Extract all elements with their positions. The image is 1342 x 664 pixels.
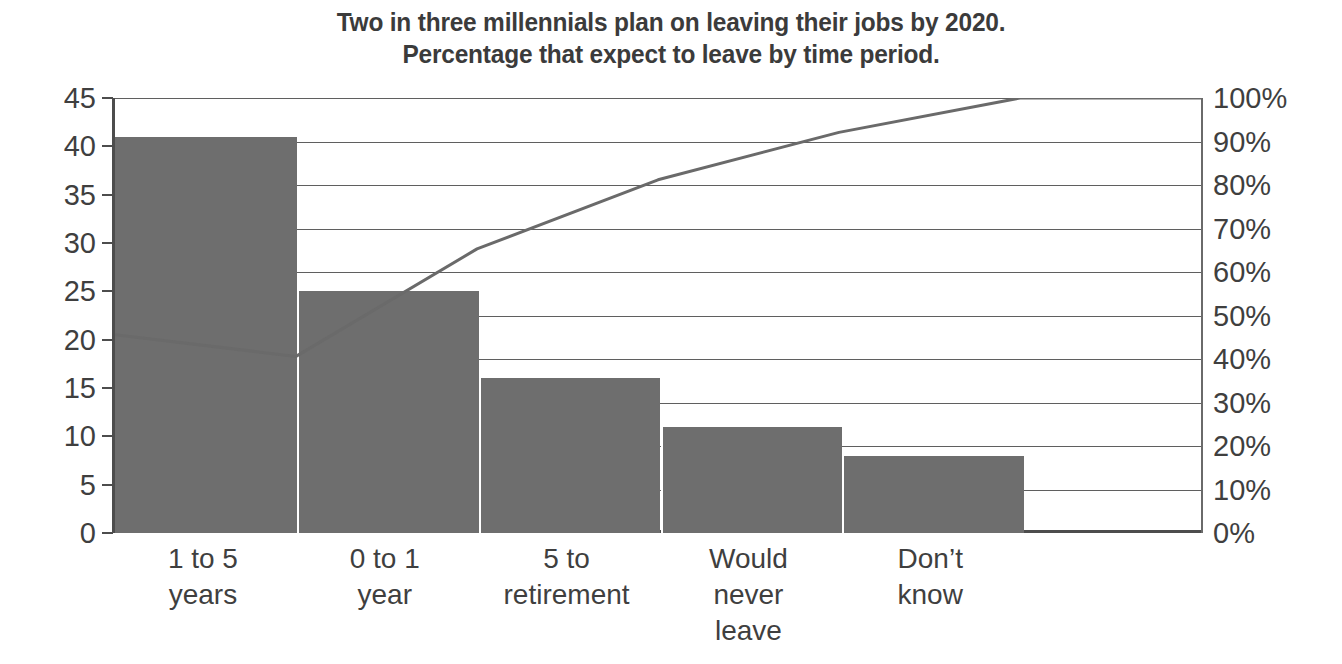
bar-series [115, 98, 1201, 533]
tick-mark-10 [102, 435, 113, 437]
x-axis-label-line: Would [658, 541, 840, 577]
bar-4 [661, 427, 843, 533]
y-axis-right-labels: 0%10%20%30%40%50%60%70%80%90%100% [1213, 98, 1342, 533]
tick-mark-0 [102, 532, 113, 534]
y-axis-left-label-30: 30 [0, 229, 96, 258]
chart-title-line-2: Percentage that expect to leave by time … [40, 38, 1301, 70]
y-axis-right-label-70%: 70% [1213, 214, 1271, 243]
chart-title: Two in three millennials plan on leaving… [0, 6, 1342, 70]
tick-mark-5 [102, 484, 113, 486]
y-axis-right-label-90%: 90% [1213, 127, 1271, 156]
chart-title-line-1: Two in three millennials plan on leaving… [40, 6, 1301, 38]
x-axis-label-4: Wouldneverleave [658, 541, 840, 649]
plot-area [112, 98, 1203, 533]
y-axis-left-label-40: 40 [0, 132, 96, 161]
y-axis-right-label-100%: 100% [1213, 84, 1287, 113]
y-axis-left-label-15: 15 [0, 374, 96, 403]
x-axis-label-line: leave [658, 613, 840, 649]
y-axis-left-label-45: 45 [0, 84, 96, 113]
x-axis-label-line: 1 to 5 [112, 541, 294, 577]
x-axis-label-line: year [294, 577, 476, 613]
y-axis-left-labels: 051015202530354045 [0, 98, 96, 533]
bar-3 [479, 378, 661, 533]
tick-mark-45 [102, 97, 113, 99]
tick-mark-40 [102, 145, 113, 147]
y-axis-right-label-40%: 40% [1213, 345, 1271, 374]
y-axis-right-label-50%: 50% [1213, 301, 1271, 330]
bar-2 [297, 291, 479, 533]
bar-1 [115, 137, 297, 533]
y-axis-right-label-20%: 20% [1213, 432, 1271, 461]
x-axis-label-line: know [839, 577, 1021, 613]
x-axis-label-3: 5 toretirement [476, 541, 658, 613]
y-axis-left-label-0: 0 [0, 519, 96, 548]
bar-5 [842, 456, 1024, 533]
y-axis-left-label-5: 5 [0, 470, 96, 499]
tick-mark-35 [102, 194, 113, 196]
pareto-chart: Two in three millennials plan on leaving… [0, 0, 1342, 664]
y-axis-right-label-10%: 10% [1213, 475, 1271, 504]
x-axis-label-1: 1 to 5years [112, 541, 294, 613]
x-axis-label-5: Don’tknow [839, 541, 1021, 613]
x-axis-label-line: Don’t [839, 541, 1021, 577]
x-axis-label-line: never [658, 577, 840, 613]
y-axis-right-label-30%: 30% [1213, 388, 1271, 417]
y-axis-right-label-0%: 0% [1213, 519, 1255, 548]
tick-mark-15 [102, 387, 113, 389]
y-axis-right-label-60%: 60% [1213, 258, 1271, 287]
x-axis-label-2: 0 to 1year [294, 541, 476, 613]
y-axis-left-label-10: 10 [0, 422, 96, 451]
y-axis-left-label-25: 25 [0, 277, 96, 306]
x-axis-label-line: years [112, 577, 294, 613]
y-axis-left-label-35: 35 [0, 180, 96, 209]
y-axis-right-label-80%: 80% [1213, 171, 1271, 200]
x-axis-category-labels: 1 to 5years0 to 1year5 toretirementWould… [112, 541, 1203, 661]
y-axis-left-label-20: 20 [0, 325, 96, 354]
x-axis-label-line: retirement [476, 577, 658, 613]
tick-mark-25 [102, 290, 113, 292]
tick-mark-30 [102, 242, 113, 244]
x-axis-label-line: 5 to [476, 541, 658, 577]
x-axis-label-line: 0 to 1 [294, 541, 476, 577]
tick-mark-20 [102, 339, 113, 341]
